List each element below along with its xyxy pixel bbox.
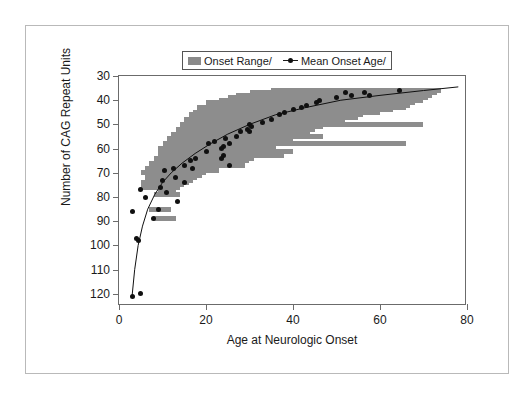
y-tick-label: 110 xyxy=(91,263,110,277)
x-tick xyxy=(467,304,468,310)
x-tick-label: 60 xyxy=(373,313,386,327)
legend-line-marker-icon xyxy=(283,56,298,65)
chart-legend: Onset Range/ Mean Onset Age/ xyxy=(182,51,392,70)
x-tick-label: 80 xyxy=(460,313,473,327)
legend-label-mean-onset-age: Mean Onset Age/ xyxy=(301,55,386,67)
legend-swatch-icon xyxy=(188,57,201,65)
legend-entry-onset-range: Onset Range/ xyxy=(188,55,272,67)
y-tick xyxy=(113,245,119,246)
mean-onset-point xyxy=(234,134,239,139)
mean-onset-point xyxy=(219,156,224,161)
y-tick-label: 90 xyxy=(97,214,110,228)
x-tick-label: 20 xyxy=(199,313,212,327)
y-axis-title: Number of CAG Repeat Units xyxy=(59,37,73,217)
mean-onset-point xyxy=(130,294,135,299)
x-axis-title: Age at Neurologic Onset xyxy=(118,333,466,347)
plot-area: 30405060708090100110120 020406080 xyxy=(118,75,466,305)
y-tick-label: 120 xyxy=(90,287,110,301)
x-tick xyxy=(293,304,294,310)
x-tick-label: 0 xyxy=(116,313,123,327)
y-tick xyxy=(113,294,119,295)
x-tick xyxy=(206,304,207,310)
mean-onset-point xyxy=(304,103,309,108)
y-tick xyxy=(113,173,119,174)
mean-onset-point xyxy=(219,146,224,151)
y-tick-label: 40 xyxy=(97,93,110,107)
y-tick-label: 30 xyxy=(97,69,110,83)
mean-onset-point xyxy=(282,110,287,115)
y-tick xyxy=(113,100,119,101)
y-tick xyxy=(113,197,119,198)
y-tick-label: 80 xyxy=(97,190,110,204)
y-tick xyxy=(113,124,119,125)
legend-entry-mean-onset-age: Mean Onset Age/ xyxy=(283,55,386,67)
mean-onset-point xyxy=(367,93,372,98)
x-tick xyxy=(119,304,120,310)
mean-onset-point xyxy=(269,117,274,122)
plot-inner-clip xyxy=(119,76,465,304)
legend-label-onset-range: Onset Range/ xyxy=(204,55,272,67)
y-tick xyxy=(113,76,119,77)
mean-onset-point xyxy=(291,107,296,112)
mean-onset-point xyxy=(182,163,187,168)
mean-onset-point xyxy=(156,207,161,212)
y-tick xyxy=(113,270,119,271)
mean-onset-point xyxy=(143,195,148,200)
mean-onset-point xyxy=(171,166,176,171)
y-tick-label: 70 xyxy=(97,166,110,180)
mean-onset-point xyxy=(182,180,187,185)
mean-onset-point xyxy=(193,156,198,161)
y-tick-label: 50 xyxy=(97,117,110,131)
figure-canvas: Onset Range/ Mean Onset Age/ 30405060708… xyxy=(0,0,521,395)
y-tick xyxy=(113,221,119,222)
mean-onset-point xyxy=(204,149,209,154)
y-tick-label: 60 xyxy=(97,142,110,156)
y-tick-label: 100 xyxy=(90,238,110,252)
x-tick xyxy=(380,304,381,310)
mean-onset-point xyxy=(160,178,165,183)
y-tick xyxy=(113,149,119,150)
mean-onset-point xyxy=(130,209,135,214)
mean-onset-point xyxy=(158,185,163,190)
mean-onset-point xyxy=(206,141,211,146)
mean-onset-point xyxy=(260,120,265,125)
x-tick-label: 40 xyxy=(286,313,299,327)
